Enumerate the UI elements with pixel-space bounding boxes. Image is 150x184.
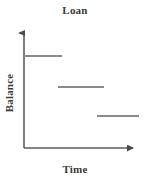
- x-axis-label: Time: [0, 162, 150, 176]
- plot-area: [0, 0, 150, 184]
- chart-figure: Loan Balance Time: [0, 0, 150, 184]
